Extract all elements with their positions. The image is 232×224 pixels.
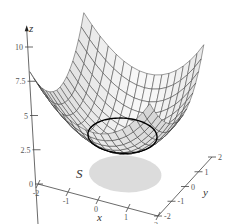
z-tick-label: 10 [15, 43, 23, 52]
z-tick-label: 7.5 [16, 77, 26, 86]
z-tick-label: 2.5 [21, 146, 31, 155]
paraboloid-figure: 02.557.510-2-1012-2-1012 z x y S [0, 0, 232, 224]
y-axis-label: y [202, 186, 208, 198]
z-tick-label: 0 [29, 180, 33, 189]
region-s-label: S [76, 166, 83, 181]
region-s-shadow [89, 156, 161, 193]
y-tick-label: 0 [191, 183, 195, 192]
z-axis-label: z [28, 22, 34, 34]
x-tick-label: 1 [124, 213, 128, 222]
y-tick-label: -2 [164, 212, 171, 221]
y-tick-label: 2 [218, 153, 222, 162]
x-tick-label: -1 [63, 197, 70, 206]
x-tick-label: 2 [154, 221, 158, 224]
paraboloid-surface [30, 13, 204, 154]
y-tick-label: 1 [205, 168, 209, 177]
x-axis-label: x [96, 211, 102, 223]
region-s-disk [89, 156, 161, 193]
x-tick-label: -2 [33, 189, 40, 198]
y-tick-label: -1 [178, 197, 185, 206]
z-tick-label: 5 [24, 112, 28, 121]
